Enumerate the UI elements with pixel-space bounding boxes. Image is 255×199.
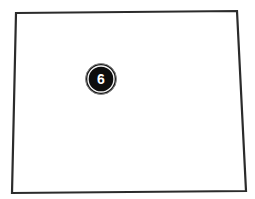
marker-label: 6	[97, 71, 105, 87]
map-marker[interactable]: 6	[86, 64, 117, 95]
state-outline[interactable]	[12, 11, 246, 193]
map-canvas: 6	[0, 0, 255, 199]
